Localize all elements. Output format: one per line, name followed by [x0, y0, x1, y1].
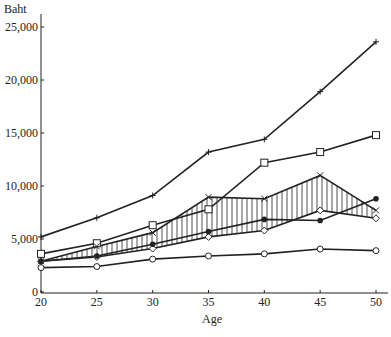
x-tick-label: 35: [203, 295, 215, 309]
y-tick-label: 10,000: [5, 179, 38, 193]
x-tick-label: 25: [91, 295, 103, 309]
square-marker: [317, 149, 324, 156]
x-tick-label: 20: [35, 295, 47, 309]
x-tick-label: 45: [314, 295, 326, 309]
y-tick-label: 5,000: [11, 232, 38, 246]
circle-marker: [94, 264, 100, 270]
filled-circle-marker: [373, 196, 379, 202]
filled-circle-marker: [317, 218, 323, 224]
square-marker: [205, 206, 212, 213]
filled-circle-marker: [38, 258, 44, 264]
square-marker: [373, 132, 380, 139]
x-tick-label: 40: [258, 295, 270, 309]
y-axis-label: Baht: [4, 2, 27, 16]
square-marker: [93, 240, 100, 247]
x-tick-label: 50: [370, 295, 382, 309]
y-tick-label: 20,000: [5, 73, 38, 87]
square-marker: [149, 222, 156, 229]
circle-marker: [38, 265, 44, 271]
line-chart: Baht 05,00010,00015,00020,00025,000 2025…: [0, 0, 391, 337]
series-markers: [38, 39, 380, 271]
x-tick-label: 30: [147, 295, 159, 309]
circle-marker: [317, 246, 323, 252]
y-tick-label: 15,000: [5, 126, 38, 140]
x-axis-label: Age: [202, 312, 222, 326]
square-marker: [261, 159, 268, 166]
filled-circle-marker: [206, 229, 212, 235]
circle-marker: [261, 251, 267, 257]
filled-circle-marker: [94, 253, 100, 259]
filled-circle-marker: [262, 217, 268, 223]
plus-marker: [94, 215, 100, 221]
y-tick-label: 25,000: [5, 20, 38, 34]
filled-circle-marker: [150, 242, 156, 248]
circle-marker: [150, 256, 156, 262]
circle-marker: [373, 248, 379, 254]
square-marker: [38, 250, 45, 257]
circle-marker: [206, 253, 212, 259]
